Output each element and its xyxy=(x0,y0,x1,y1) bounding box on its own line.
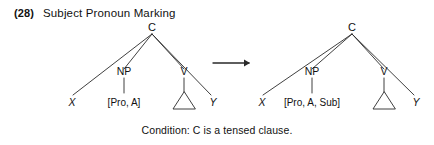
left-branch-c-x xyxy=(73,34,152,95)
left-branch-c-np xyxy=(124,34,152,69)
left-tree-node-y: Y xyxy=(209,97,216,108)
condition-text: Condition: C is a tensed clause. xyxy=(142,124,293,136)
left-tree-node-v: V xyxy=(180,66,187,77)
right-triangle-icon xyxy=(373,92,395,109)
right-branch-c-v xyxy=(352,34,384,69)
figure-title: Subject Pronoun Marking xyxy=(43,7,176,19)
left-tree-root-c: C xyxy=(148,22,156,33)
left-tree-node-x: X xyxy=(68,97,75,108)
figure-container: (28) Subject Pronoun Marking xyxy=(0,0,434,145)
right-tree-np-terminal: [Pro, A, Sub] xyxy=(284,97,340,108)
right-tree-node-y: Y xyxy=(412,97,419,108)
left-tree-np-terminal: [Pro, A] xyxy=(108,97,141,108)
right-branch-c-np xyxy=(312,34,352,69)
left-tree-node-np: NP xyxy=(117,66,132,77)
example-number: (28) xyxy=(14,7,34,19)
right-tree-node-np: NP xyxy=(305,66,320,77)
left-triangle-icon xyxy=(173,92,195,109)
right-tree-node-v: V xyxy=(380,66,387,77)
left-branch-c-v xyxy=(152,34,184,69)
right-tree-root-c: C xyxy=(348,22,356,33)
transform-arrow-head xyxy=(244,60,250,67)
right-tree-node-x: X xyxy=(258,97,265,108)
